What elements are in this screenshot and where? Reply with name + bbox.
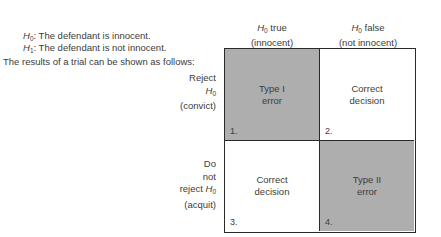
h1-symbol: H [23, 42, 30, 53]
row-note: (acquit) [146, 199, 216, 212]
h0-text: : The defendant is innocent. [34, 30, 151, 41]
h0-symbol: H [23, 30, 30, 41]
column-header-title: H0 false [320, 22, 416, 37]
h1-text: : The defendant is not innocent. [34, 42, 167, 53]
row-note: (convict) [146, 100, 216, 113]
cell-label: Correctdecision [225, 174, 319, 198]
null-hypothesis: H0: The defendant is innocent. [23, 30, 151, 42]
col-text: false [362, 22, 385, 33]
cell-number: 1. [230, 126, 238, 136]
cell-line: Type I [225, 83, 319, 95]
row-text: reject [180, 183, 206, 194]
decision-matrix: Type Ierror 1. Correctdecision 2. Correc… [224, 48, 416, 233]
row-subscript: 0 [212, 188, 216, 195]
row-header-do-not-reject: Do not reject H0 (acquit) [146, 158, 216, 211]
cell-line: Correct [320, 83, 414, 95]
row-header-reject: Reject H0 (convict) [146, 72, 216, 113]
cell-label: Type Ierror [225, 83, 319, 107]
alternative-hypothesis: H1: The defendant is not innocent. [23, 42, 166, 54]
cell-type-i-error: Type Ierror 1. [225, 49, 320, 141]
intro-text: The results of a trial can be shown as f… [3, 56, 195, 67]
cell-line: decision [320, 95, 414, 107]
col-text: true [268, 22, 287, 33]
cell-line: error [225, 95, 319, 107]
column-header-h0-false: H0 false (not innocent) [320, 22, 416, 49]
cell-line: error [320, 186, 414, 198]
row-subscript: 0 [212, 90, 216, 97]
cell-number: 3. [230, 217, 238, 227]
cell-correct-decision-1: Correctdecision 2. [320, 49, 414, 141]
row-line: reject H0 [146, 183, 216, 199]
row-line: Reject [146, 72, 216, 85]
row-line: Do [146, 158, 216, 171]
cell-line: Type II [320, 174, 414, 186]
cell-number: 2. [325, 126, 333, 136]
cell-line: Correct [225, 174, 319, 186]
cell-number: 4. [325, 217, 333, 227]
cell-label: Type IIerror [320, 174, 414, 198]
cell-type-ii-error: Type IIerror 4. [320, 141, 414, 231]
row-line: not [146, 171, 216, 184]
cell-line: decision [225, 186, 319, 198]
column-header-h0-true: H0 true (innocent) [224, 22, 320, 49]
column-header-title: H0 true [224, 22, 320, 37]
cell-label: Correctdecision [320, 83, 414, 107]
row-line: H0 [146, 85, 216, 101]
cell-correct-decision-2: Correctdecision 3. [225, 141, 320, 231]
